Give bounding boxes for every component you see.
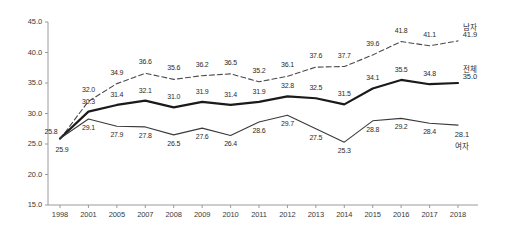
- data-point-label: 32.5: [309, 84, 322, 91]
- data-point-label: 39.6: [366, 40, 379, 47]
- data-point-label: 30.3: [82, 98, 95, 105]
- data-point-label: 31.9: [196, 88, 209, 95]
- data-point-label: 34.9: [110, 69, 123, 76]
- data-point-label: 29.1: [82, 124, 95, 131]
- data-point-label: 37.6: [309, 52, 322, 59]
- data-point-label: 27.8: [139, 132, 152, 139]
- data-point-label: 27.5: [309, 134, 322, 141]
- start-label-male: 25.8: [45, 128, 58, 135]
- data-point-label: 28.8: [366, 126, 379, 133]
- y-axis-tick-label: 35.0: [8, 78, 42, 87]
- data-point-label: 36.1: [281, 61, 294, 68]
- y-axis-tick-label: 30.0: [8, 109, 42, 118]
- data-point-label: 34.1: [366, 74, 379, 81]
- data-point-label: 27.6: [196, 133, 209, 140]
- data-point-label: 37.7: [338, 52, 351, 59]
- data-point-label: 26.5: [167, 140, 180, 147]
- data-point-label: 35.6: [167, 64, 180, 71]
- y-axis-tick-label: 40.0: [8, 48, 42, 57]
- x-axis-tick-label: 2018: [438, 210, 478, 219]
- data-point-label: 32.8: [281, 82, 294, 89]
- series-end-value-전체: 35.0: [463, 72, 478, 81]
- series-end-value-남자: 41.9: [463, 30, 478, 39]
- data-point-label: 32.1: [139, 87, 152, 94]
- data-point-label: 27.9: [110, 131, 123, 138]
- start-label-total: 25.9: [56, 146, 69, 153]
- data-point-label: 41.8: [395, 27, 408, 34]
- data-point-label: 29.2: [395, 123, 408, 130]
- data-point-label: 31.9: [253, 88, 266, 95]
- data-point-label: 28.6: [253, 127, 266, 134]
- data-point-label: 36.5: [224, 59, 237, 66]
- data-point-label: 36.6: [139, 58, 152, 65]
- y-axis-tick-label: 20.0: [8, 170, 42, 179]
- data-point-label: 28.4: [423, 128, 436, 135]
- data-point-label: 29.7: [281, 120, 294, 127]
- y-axis-tick-label: 45.0: [8, 17, 42, 26]
- data-point-label: 41.1: [423, 31, 436, 38]
- data-point-label: 35.2: [253, 67, 266, 74]
- data-point-label: 25.3: [338, 147, 351, 154]
- data-point-label: 31.4: [224, 91, 237, 98]
- data-point-label: 26.4: [224, 140, 237, 147]
- data-point-label: 36.2: [196, 61, 209, 68]
- line-chart: 45.040.035.030.025.020.015.0 19982001200…: [0, 0, 505, 247]
- data-point-label: 32.0: [82, 86, 95, 93]
- data-point-label: 35.5: [395, 66, 408, 73]
- series-end-value-여자: 28.1: [455, 130, 470, 139]
- series-end-name-여자: 여자: [455, 140, 469, 151]
- data-point-label: 31.5: [338, 90, 351, 97]
- data-point-label: 31.0: [167, 93, 180, 100]
- axes-group: [45, 22, 478, 208]
- y-axis-tick-label: 25.0: [8, 139, 42, 148]
- y-axis-tick-label: 15.0: [8, 200, 42, 209]
- data-point-label: 31.4: [110, 91, 123, 98]
- data-point-label: 34.8: [423, 70, 436, 77]
